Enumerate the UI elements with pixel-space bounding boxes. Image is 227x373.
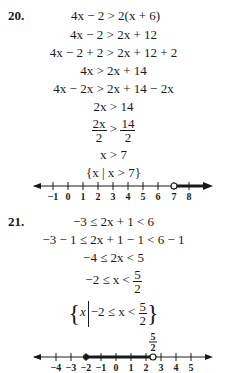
denominator: 2 <box>139 314 148 327</box>
p20-step-5: 4x − 2x > 2x + 14 − 2x <box>0 81 227 97</box>
svg-text:4: 4 <box>126 191 131 202</box>
svg-text:−4: −4 <box>51 362 62 373</box>
denominator: 2 <box>120 131 135 144</box>
svg-text:7: 7 <box>172 191 177 202</box>
svg-text:5: 5 <box>189 362 194 373</box>
svg-text:−1: −1 <box>96 362 107 373</box>
svg-text:5: 5 <box>151 332 156 342</box>
p20-step-8: x > 7 <box>0 147 227 163</box>
svg-text:8: 8 <box>187 191 192 202</box>
numerator: 5 <box>139 300 148 314</box>
p20-step-6: 2x > 14 <box>0 99 227 115</box>
p21-step-2: −3 − 1 ≤ 2x + 1 − 1 < 6 − 1 <box>0 232 227 248</box>
p21-step-1: −3 ≤ 2x + 1 < 6 <box>0 214 227 230</box>
left-brace: { <box>68 300 80 326</box>
numerator: 5 <box>133 268 142 282</box>
svg-text:2: 2 <box>96 191 101 202</box>
fraction: 5 2 <box>139 300 148 327</box>
svg-text:0: 0 <box>66 191 71 202</box>
svg-text:−2: −2 <box>81 362 92 373</box>
such-that-bar <box>88 301 89 327</box>
p21-set-notation: {x−2 ≤ x < 5 2 } <box>0 300 227 327</box>
svg-text:0: 0 <box>114 362 119 373</box>
svg-text:3: 3 <box>111 191 116 202</box>
arrow-right-icon <box>205 354 213 360</box>
fraction: 14 2 <box>120 117 135 144</box>
p21-number-line: 5 2 −4 −3 −2 −1 0 1 2 3 4 5 <box>0 332 227 373</box>
denominator: 2 <box>92 131 107 144</box>
svg-text:2: 2 <box>151 342 156 353</box>
arrow-left-icon <box>33 183 41 189</box>
p21-step-4: −2 ≤ x < 5 2 <box>0 268 227 295</box>
p20-number-line: −1 0 1 2 3 4 5 6 7 8 <box>0 180 227 202</box>
p20-step-3: 4x − 2 + 2 > 2x + 12 + 2 <box>0 45 227 61</box>
fraction: 5 2 <box>133 268 142 295</box>
open-point-7 <box>171 183 177 189</box>
denominator: 2 <box>133 282 142 295</box>
numerator: 14 <box>120 117 135 131</box>
svg-text:1: 1 <box>81 191 86 202</box>
p20-step-1: 4x − 2 > 2(x + 6) <box>0 8 227 24</box>
arrow-left-icon <box>33 354 41 360</box>
arrow-right-icon <box>203 182 213 190</box>
svg-text:−3: −3 <box>66 362 77 373</box>
svg-text:1: 1 <box>129 362 134 373</box>
operator: > <box>110 121 117 136</box>
set-condition: −2 ≤ x < <box>91 304 136 319</box>
p20-step-4: 4x > 2x + 14 <box>0 63 227 79</box>
svg-text:−1: −1 <box>48 191 59 202</box>
closed-point-neg2 <box>83 354 89 360</box>
open-point-5-2 <box>150 354 156 360</box>
numerator: 2x <box>92 117 107 131</box>
svg-text:6: 6 <box>156 191 161 202</box>
p20-set-notation: {x | x > 7} <box>0 165 227 181</box>
p21-step-3: −4 ≤ 2x < 5 <box>0 250 227 266</box>
set-var: x <box>80 304 86 319</box>
fraction: 2x 2 <box>92 117 107 144</box>
p20-step-7-fraction: 2x 2 > 14 2 <box>0 117 227 144</box>
svg-text:2: 2 <box>144 362 149 373</box>
svg-text:4: 4 <box>174 362 179 373</box>
p20-step-2: 4x − 2 > 2x + 12 <box>0 27 227 43</box>
svg-text:3: 3 <box>159 362 164 373</box>
svg-text:5: 5 <box>141 191 146 202</box>
inequality-left: −2 ≤ x < <box>85 272 130 287</box>
right-brace: } <box>147 300 159 326</box>
